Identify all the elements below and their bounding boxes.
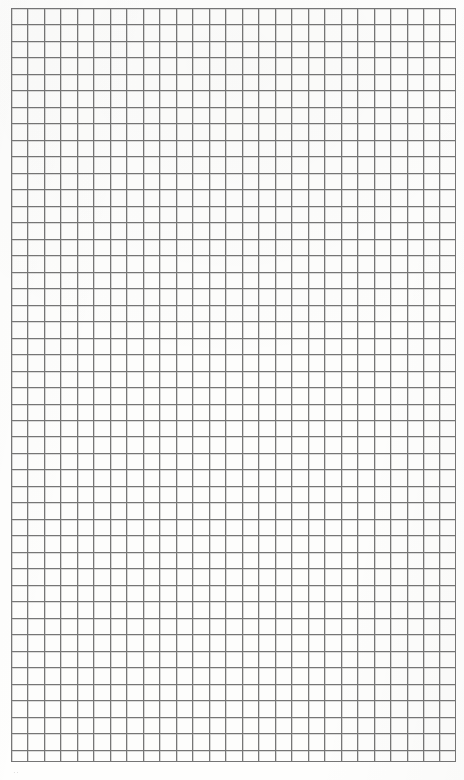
grid-ink-bleed-layer — [11, 8, 456, 762]
grid-outer-border — [11, 8, 456, 762]
page-number-mark: ·· — [13, 768, 19, 777]
graph-paper-page: ·· — [0, 0, 464, 780]
graph-paper-grid — [11, 8, 456, 762]
